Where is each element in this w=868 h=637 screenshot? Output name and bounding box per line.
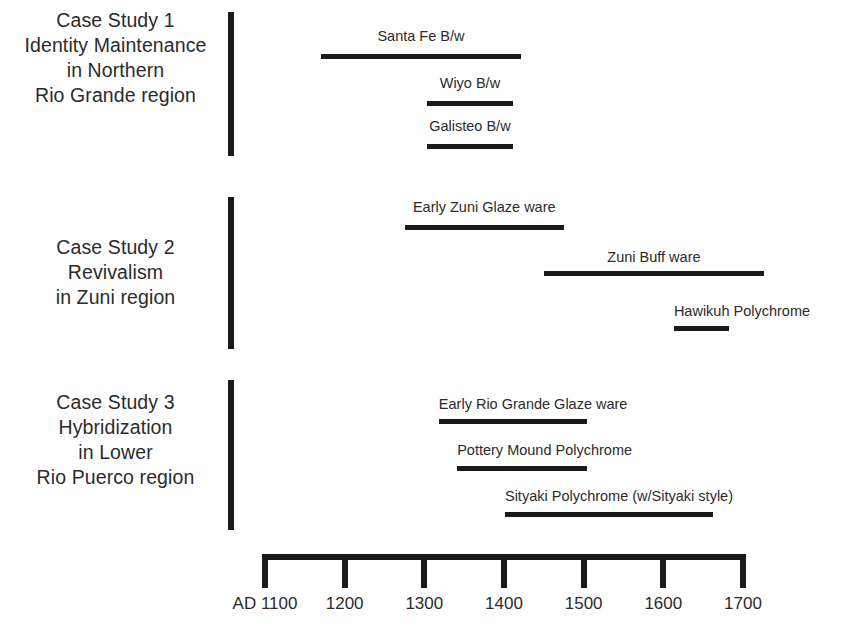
- range-bar: [321, 54, 521, 59]
- case-study-label-3: Case Study 3Hybridizationin LowerRio Pue…: [3, 390, 228, 490]
- case-study-label-line: Revivalism: [3, 260, 228, 285]
- range-label: Sityaki Polychrome (w/Sityaki style): [505, 488, 713, 505]
- case-study-label-line: Case Study 2: [3, 235, 228, 260]
- range-label: Santa Fe B/w: [321, 28, 521, 45]
- case-study-label-line: in Lower: [3, 440, 228, 465]
- case-study-label-2: Case Study 2Revivalismin Zuni region: [3, 235, 228, 310]
- axis-tick-label: 1700: [683, 594, 803, 614]
- range-label: Galisteo B/w: [427, 118, 513, 135]
- axis-tick: [342, 560, 348, 588]
- group-divider-3: [228, 380, 234, 530]
- range-label: Hawikuh Polychrome: [674, 303, 729, 320]
- group-divider-2: [228, 197, 234, 349]
- range-label: Early Zuni Glaze ware: [405, 199, 564, 216]
- range-bar: [427, 144, 513, 149]
- case-study-label-line: Hybridization: [3, 415, 228, 440]
- axis-tick: [581, 560, 587, 588]
- case-study-label-line: in Northern: [3, 58, 228, 83]
- group-divider-1: [228, 12, 234, 156]
- case-study-label-line: Case Study 1: [3, 8, 228, 33]
- range-bar: [674, 326, 729, 331]
- range-bar: [427, 101, 513, 106]
- axis-tick: [421, 560, 427, 588]
- case-study-label-line: Case Study 3: [3, 390, 228, 415]
- range-label: Pottery Mound Polychrome: [457, 442, 587, 459]
- case-study-label-1: Case Study 1Identity Maintenancein North…: [3, 8, 228, 108]
- axis-tick: [262, 560, 268, 588]
- range-label: Early Rio Grande Glaze ware: [439, 396, 587, 413]
- case-study-label-line: Identity Maintenance: [3, 33, 228, 58]
- axis-tick: [501, 560, 507, 588]
- case-study-label-line: Rio Puerco region: [3, 465, 228, 490]
- case-study-label-line: Rio Grande region: [3, 83, 228, 108]
- case-study-label-line: in Zuni region: [3, 285, 228, 310]
- range-bar: [505, 512, 713, 517]
- timeline-figure: Case Study 1Identity Maintenancein North…: [0, 0, 868, 637]
- range-label: Zuni Buff ware: [544, 249, 764, 266]
- range-bar: [405, 225, 564, 230]
- range-bar: [457, 466, 587, 471]
- range-bar: [544, 271, 764, 276]
- axis-tick: [660, 560, 666, 588]
- axis-tick: [740, 560, 746, 588]
- range-label: Wiyo B/w: [427, 75, 513, 92]
- range-bar: [439, 419, 587, 424]
